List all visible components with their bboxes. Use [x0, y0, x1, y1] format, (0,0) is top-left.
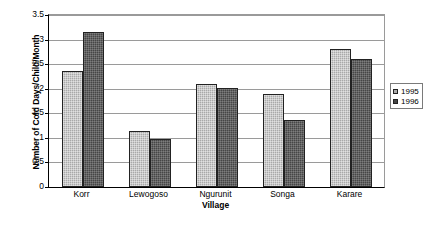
y-axis-tick-labels: 00.511.522.533.5	[22, 0, 44, 227]
y-axis-tick-label: 3	[22, 35, 44, 43]
x-axis-tick-label: Ngurunit	[182, 189, 249, 199]
legend-swatch-icon	[393, 99, 398, 104]
bar	[284, 120, 305, 187]
x-axis-tick-label: Karare	[316, 189, 383, 199]
bar	[263, 94, 284, 187]
bar	[217, 88, 238, 187]
x-axis-tick-label: Lewogoso	[115, 189, 182, 199]
legend-swatch-icon	[393, 89, 398, 94]
bar	[150, 139, 171, 187]
bar-group	[263, 15, 305, 187]
bar-chart-figure: Number of Cold Days/Child/Month 00.511.5…	[0, 0, 436, 227]
bar-group	[62, 15, 104, 187]
legend-label: 1996	[401, 97, 419, 106]
y-axis-tick-label: 0.5	[22, 157, 44, 165]
bar-group	[330, 15, 372, 187]
y-axis-tick-label: 2	[22, 84, 44, 92]
y-axis-tick-label: 1.5	[22, 108, 44, 116]
y-axis-tick-label: 1	[22, 133, 44, 141]
bar	[351, 59, 372, 187]
y-axis-tick-label: 0	[22, 182, 44, 190]
bar	[83, 32, 104, 187]
legend-item: 1996	[393, 96, 419, 106]
y-axis-tick-mark	[45, 187, 49, 188]
y-axis-tick-label: 3.5	[22, 10, 44, 18]
bar	[129, 131, 150, 187]
bars-layer	[49, 15, 384, 187]
bar-group	[129, 15, 171, 187]
legend-item: 1995	[393, 86, 419, 96]
bar-group	[196, 15, 238, 187]
x-axis-tick-label: Songa	[249, 189, 316, 199]
x-axis-title: Village	[48, 200, 383, 210]
bar	[330, 49, 351, 187]
x-axis-tick-label: Korr	[48, 189, 115, 199]
plot-area	[48, 14, 385, 188]
legend: 19951996	[390, 83, 423, 109]
legend-label: 1995	[401, 87, 419, 96]
bar	[196, 84, 217, 187]
y-axis-tick-label: 2.5	[22, 59, 44, 67]
bar	[62, 71, 83, 187]
